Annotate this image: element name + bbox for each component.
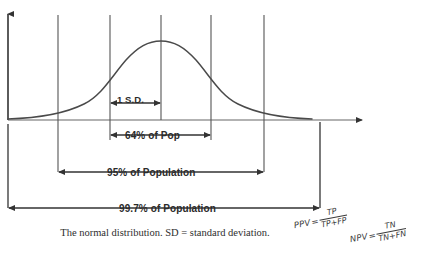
ppv-name: PPV — [293, 217, 311, 230]
npv-name: NPV — [349, 231, 368, 244]
figure-page: 1 S.D. 64% of Pop 95% of Population 99.7… — [0, 0, 423, 264]
axis-group — [8, 14, 362, 120]
sixty-four-percent-label: 64% of Pop — [125, 130, 180, 141]
gridline-group — [58, 15, 264, 172]
normal-distribution-diagram — [0, 0, 423, 264]
ninety-five-percent-label: 95% of Population — [107, 167, 195, 178]
one-sd-label: 1 S.D. — [117, 94, 144, 105]
cutoff-text-line — [60, 255, 320, 264]
ninety-nine-seven-percent-label: 99.7% of Population — [119, 203, 216, 214]
bell-curve — [8, 41, 312, 119]
figure-caption: The normal distribution. SD = standard d… — [0, 227, 330, 238]
